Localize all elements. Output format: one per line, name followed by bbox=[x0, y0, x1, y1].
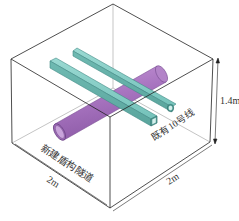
width-right-label: 2m bbox=[164, 170, 181, 186]
tunnel-crossing-diagram: 新建盾构隧道 既有10号线 2m 2m 1.4m bbox=[0, 0, 239, 221]
width-left-label: 2m bbox=[45, 173, 62, 189]
height-label: 1.4m bbox=[220, 95, 239, 106]
